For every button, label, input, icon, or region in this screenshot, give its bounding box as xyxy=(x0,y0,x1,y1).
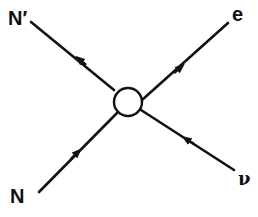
leg-n xyxy=(39,113,117,192)
leg-nu xyxy=(141,110,234,170)
label-n: N xyxy=(10,186,24,206)
feynman-diagram xyxy=(0,0,258,217)
label-nu: ν xyxy=(238,170,251,188)
label-n-prime: N′ xyxy=(8,8,27,28)
leg-e xyxy=(142,23,228,100)
vertex-circle xyxy=(114,88,142,116)
label-e: e xyxy=(232,4,243,24)
arrow-icon xyxy=(186,139,194,144)
leg-n-prime xyxy=(31,22,114,90)
arrow-icon xyxy=(71,152,78,159)
